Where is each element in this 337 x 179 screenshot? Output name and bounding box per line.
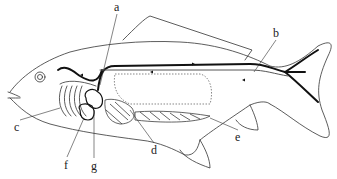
cardinal-vein [100, 70, 288, 76]
caudal-branch-lower [285, 72, 318, 102]
label-c: c [14, 121, 19, 133]
label-e: e [235, 131, 240, 143]
leader-e [210, 118, 238, 130]
label-a: a [114, 1, 119, 13]
heart-ventricle [79, 104, 94, 120]
label-g: g [91, 160, 97, 172]
body-outline-dorsal [10, 41, 331, 137]
eye [35, 72, 45, 82]
fish-circulatory-diagram: a b c d e f g [0, 0, 337, 179]
pelvic-fin [180, 140, 210, 168]
leader-d [130, 110, 154, 143]
dorsal-aorta [98, 64, 305, 90]
anal-fin [236, 105, 258, 130]
flow-arrow [242, 79, 245, 82]
label-b: b [273, 27, 279, 39]
heart-atrium [85, 90, 102, 109]
leader-c [20, 108, 60, 120]
mouth [8, 92, 20, 98]
caudal-branch-upper [285, 50, 318, 72]
leader-a [100, 14, 117, 85]
liver-capillaries [105, 99, 134, 124]
label-f: f [64, 159, 68, 171]
fish-drawing [0, 0, 337, 179]
dorsal-fin [123, 16, 252, 60]
flow-arrow [150, 71, 153, 74]
label-d: d [151, 144, 157, 156]
leader-f [67, 118, 84, 157]
head-vessel [58, 68, 102, 81]
gill-arches [59, 86, 86, 116]
swim-bladder [114, 74, 211, 104]
